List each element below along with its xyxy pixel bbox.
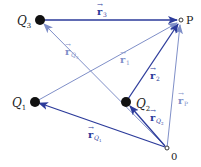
svg-text:1: 1 — [126, 59, 130, 66]
charge-Q3 — [35, 15, 45, 25]
point-P — [179, 18, 183, 22]
vector-rQ3 — [44, 24, 165, 146]
svg-text:2: 2 — [156, 75, 160, 82]
point-origin — [165, 146, 169, 150]
svg-text:Q3: Q3 — [71, 51, 79, 60]
label-Q2: Q2 — [136, 97, 150, 113]
vector-r1 — [35, 23, 177, 102]
label-Q1: Q1 — [12, 96, 26, 112]
vector-r2 — [126, 24, 178, 102]
label-r3: → r 3 — [97, 1, 107, 18]
svg-text:Q2: Q2 — [156, 117, 164, 126]
svg-text:Q1: Q1 — [94, 134, 101, 143]
label-Q3: Q3 — [17, 14, 31, 30]
label-origin: 0 — [171, 151, 177, 162]
diagram-canvas: Q3 Q1 Q2 P 0 → r 3 → r 1 → r 2 → r P → r — [0, 0, 201, 167]
charge-Q1 — [30, 97, 40, 107]
label-rQ1: → r Q1 — [88, 124, 101, 143]
vector-rP — [167, 25, 180, 148]
svg-text:3: 3 — [103, 11, 107, 18]
label-rQ3: → r Q3 — [65, 41, 79, 60]
label-rP: → r P — [178, 90, 188, 107]
position-vector-diagram: Q3 Q1 Q2 P 0 → r 3 → r 1 → r 2 → r P → r — [0, 0, 201, 167]
label-r2: → r 2 — [150, 65, 160, 82]
label-r1: → r 1 — [120, 49, 130, 66]
charge-Q2 — [121, 97, 131, 107]
label-P: P — [186, 14, 194, 27]
label-rQ2: → r Q2 — [150, 107, 164, 126]
svg-text:P: P — [184, 100, 188, 107]
